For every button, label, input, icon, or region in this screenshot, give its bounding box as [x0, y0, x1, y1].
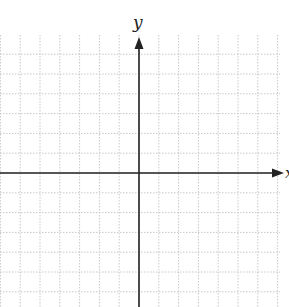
x-axis: [0, 169, 284, 178]
y-axis-label: y: [132, 12, 143, 32]
grid-lines: [0, 35, 280, 307]
y-axis-arrow-icon: [135, 37, 144, 49]
x-axis-label: x: [285, 164, 289, 182]
coordinate-plane: x y: [0, 0, 289, 307]
y-axis: [135, 37, 144, 307]
